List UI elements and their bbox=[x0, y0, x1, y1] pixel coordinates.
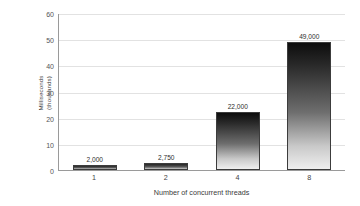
bar-slot: 22,000 bbox=[202, 14, 274, 170]
y-tick-label: 0 bbox=[30, 168, 54, 175]
plot-area: 2,000 2,750 22,000 49,000 bbox=[58, 14, 345, 171]
y-axis-tick-labels: 0 10 20 30 40 50 60 bbox=[30, 14, 54, 171]
bar[interactable]: 49,000 bbox=[287, 42, 331, 170]
bar-slot: 2,750 bbox=[131, 14, 203, 170]
bar-series: 2,000 2,750 22,000 49,000 bbox=[59, 14, 345, 170]
y-tick-label: 30 bbox=[30, 89, 54, 96]
bar-chart: Milliseconds (thousands) 0 10 20 30 40 5… bbox=[0, 0, 360, 206]
x-tick-label: 8 bbox=[273, 173, 345, 185]
x-tick-label: 4 bbox=[202, 173, 274, 185]
y-tick-label: 20 bbox=[30, 115, 54, 122]
bar[interactable]: 22,000 bbox=[216, 112, 260, 170]
bar-value-label: 22,000 bbox=[228, 103, 248, 110]
bar-value-label: 2,750 bbox=[158, 154, 175, 161]
x-tick-label: 2 bbox=[130, 173, 202, 185]
bar-value-label: 49,000 bbox=[299, 33, 319, 40]
y-tick-label: 60 bbox=[30, 11, 54, 18]
y-tick-label: 40 bbox=[30, 63, 54, 70]
x-axis-title: Number of concurrent threads bbox=[58, 188, 345, 197]
bar[interactable]: 2,750 bbox=[144, 163, 188, 170]
x-axis-tick-labels: 1 2 4 8 bbox=[58, 173, 345, 185]
y-tick-label: 50 bbox=[30, 37, 54, 44]
bar-value-label: 2,000 bbox=[86, 156, 103, 163]
bar-slot: 2,000 bbox=[59, 14, 131, 170]
y-tick-label: 10 bbox=[30, 141, 54, 148]
bar-slot: 49,000 bbox=[274, 14, 346, 170]
x-tick-label: 1 bbox=[58, 173, 130, 185]
bar[interactable]: 2,000 bbox=[73, 165, 117, 170]
